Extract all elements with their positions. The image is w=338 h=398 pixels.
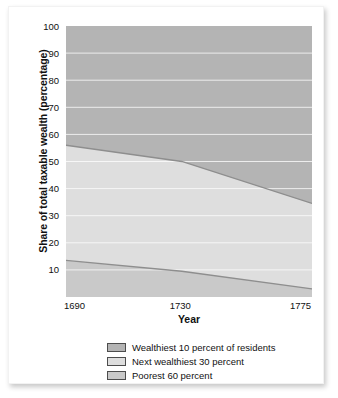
stacked-area-plot bbox=[66, 26, 312, 297]
plot-area bbox=[66, 26, 312, 297]
legend-label: Poorest 60 percent bbox=[132, 371, 212, 381]
y-axis-tick-labels: 102030405060708090100 bbox=[33, 21, 59, 297]
y-axis-tick-label: 50 bbox=[33, 157, 59, 166]
legend-swatch bbox=[107, 343, 126, 352]
legend-swatch bbox=[107, 357, 126, 366]
y-axis-tick-label: 40 bbox=[33, 184, 59, 193]
legend-item: Wealthiest 10 percent of residents bbox=[107, 341, 317, 354]
x-axis-tick-label: 1775 bbox=[290, 300, 311, 311]
x-axis-tick-label: 1690 bbox=[64, 300, 85, 311]
area-chart: Share of total taxable wealth (percentag… bbox=[9, 7, 325, 327]
y-axis-tick-label: 10 bbox=[33, 265, 59, 274]
x-axis-tick-labels: 169017301775 bbox=[9, 300, 325, 314]
y-axis-tick-label: 90 bbox=[33, 49, 59, 58]
legend-swatch bbox=[107, 371, 126, 380]
y-axis-tick-label: 100 bbox=[33, 22, 59, 31]
legend-item: Poorest 60 percent bbox=[107, 369, 317, 382]
x-axis-title: Year bbox=[66, 313, 312, 325]
legend-label: Wealthiest 10 percent of residents bbox=[132, 343, 275, 353]
legend-item: Next wealthiest 30 percent bbox=[107, 355, 317, 368]
chart-legend: Wealthiest 10 percent of residentsNext w… bbox=[107, 341, 317, 383]
y-axis-tick-label: 30 bbox=[33, 211, 59, 220]
figure-card: Share of total taxable wealth (percentag… bbox=[8, 6, 324, 384]
y-axis-tick-label: 20 bbox=[33, 238, 59, 247]
y-axis-tick-label: 60 bbox=[33, 130, 59, 139]
y-axis-tick-label: 70 bbox=[33, 103, 59, 112]
x-axis-tick-label: 1730 bbox=[170, 300, 191, 311]
legend-label: Next wealthiest 30 percent bbox=[132, 357, 244, 367]
y-axis-tick-label: 80 bbox=[33, 76, 59, 85]
